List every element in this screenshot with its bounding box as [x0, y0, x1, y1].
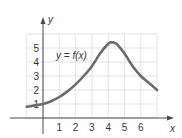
y-tick-label: 3	[33, 71, 39, 82]
x-tick-label: 4	[105, 122, 111, 133]
x-tick-label: 6	[138, 122, 144, 133]
x-axis-arrow-icon	[167, 116, 174, 121]
curve-label: y = f(x)	[55, 50, 87, 61]
x-axis-label: x	[169, 123, 176, 134]
grid	[27, 34, 157, 118]
x-tick-labels: 123456	[57, 122, 145, 133]
y-tick-labels: 12345	[33, 43, 39, 110]
x-tick-label: 2	[73, 122, 79, 133]
y-axis-arrow-icon	[41, 17, 46, 24]
x-tick-label: 1	[57, 122, 63, 133]
y-tick-label: 4	[33, 57, 39, 68]
y-axis-label: y	[47, 14, 54, 25]
chart-svg: 123456 12345 x y y = f(x)	[0, 0, 182, 138]
y-axis	[41, 17, 46, 134]
x-tick-label: 3	[89, 122, 95, 133]
x-tick-label: 5	[122, 122, 128, 133]
y-tick-label: 5	[33, 43, 39, 54]
y-tick-label: 2	[33, 85, 39, 96]
